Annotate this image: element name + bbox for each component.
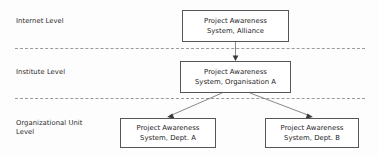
tier-label-institute-level: Institute Level: [16, 68, 65, 77]
node-project-awareness-system-alliance[interactable]: Project Awareness System, Alliance: [182, 10, 289, 42]
tier-label-internet-level: Internet Level: [16, 17, 64, 26]
edge-organisation-to-dept-b: [250, 93, 313, 119]
node-project-awareness-system-organisation-a[interactable]: Project Awareness System, Organisation A: [180, 61, 291, 93]
edge-organisation-to-dept-a: [167, 93, 222, 119]
tier-label-organizational-unit-level: Organizational Unit Level: [16, 119, 96, 137]
hierarchy-diagram: Internet Level Institute Level Organizat…: [0, 0, 379, 155]
node-project-awareness-system-dept-a[interactable]: Project Awareness System, Dept. A: [120, 118, 216, 148]
tier-divider-internet-institute: [15, 48, 365, 49]
edge-alliance-to-organisation: [233, 42, 239, 61]
node-project-awareness-system-dept-b[interactable]: Project Awareness System, Dept. B: [265, 118, 359, 148]
tier-divider-institute-orgunit: [15, 98, 365, 99]
